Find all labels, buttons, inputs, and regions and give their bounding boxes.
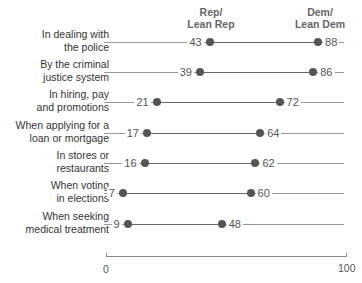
dem-value: 60	[256, 187, 272, 199]
rep-value: 16	[122, 157, 138, 169]
dem-dot	[256, 129, 264, 137]
rep-dot	[206, 38, 214, 46]
category-label: When applying for a loan or mortgage	[0, 119, 109, 145]
x-tick-0	[106, 253, 107, 257]
rep-dot	[143, 129, 151, 137]
rep-value: 7	[107, 187, 117, 199]
legend-dem-line2: Lean Dem	[290, 18, 350, 30]
category-label-line1: In hiring, pay	[0, 88, 109, 101]
category-label-line1: When voting	[0, 179, 109, 192]
legend-dem: Dem/ Lean Dem	[290, 6, 350, 30]
legend-rep: Rep/ Lean Rep	[181, 6, 241, 30]
category-label-line2: in elections	[0, 192, 109, 205]
category-label-line2: medical treatment	[0, 223, 109, 236]
rep-dot	[124, 220, 132, 228]
rep-dot	[196, 68, 204, 76]
dem-value: 72	[285, 96, 301, 108]
category-label-line2: restaurants	[0, 162, 109, 175]
rep-dot	[119, 189, 127, 197]
x-tick-100	[346, 253, 347, 257]
dem-value: 64	[265, 127, 281, 139]
category-label: When voting in elections	[0, 179, 109, 205]
gap-segment	[128, 224, 222, 225]
gap-segment	[200, 72, 313, 73]
rep-dot	[153, 98, 161, 106]
dem-dot	[247, 189, 255, 197]
dem-value: 86	[318, 66, 334, 78]
category-label: In dealing with the police	[0, 28, 109, 54]
gap-segment	[123, 193, 251, 194]
dem-dot	[314, 38, 322, 46]
rep-value: 43	[187, 36, 203, 48]
category-label-line2: justice system	[0, 71, 109, 84]
category-label: When seeking medical treatment	[0, 210, 109, 236]
category-label-line1: When applying for a	[0, 119, 109, 132]
dem-dot	[276, 98, 284, 106]
dem-dot	[251, 159, 259, 167]
rep-value: 17	[125, 127, 141, 139]
rep-value: 39	[178, 66, 194, 78]
category-label-line1: When seeking	[0, 210, 109, 223]
dem-dot	[218, 220, 226, 228]
category-label: By the criminal justice system	[0, 58, 109, 84]
dem-value: 48	[227, 218, 243, 230]
x-tick-label-100: 100	[338, 262, 356, 274]
legend-rep-line2: Lean Rep	[181, 18, 241, 30]
gap-segment	[210, 42, 318, 43]
rep-dot	[141, 159, 149, 167]
x-tick-label-0: 0	[103, 263, 109, 275]
category-label-line1: In dealing with	[0, 28, 109, 41]
dem-value: 62	[260, 157, 276, 169]
category-label-line2: loan or mortgage	[0, 132, 109, 145]
dem-dot	[309, 68, 317, 76]
legend-rep-line1: Rep/	[181, 6, 241, 18]
gap-segment	[147, 133, 260, 134]
category-label: In hiring, pay and promotions	[0, 88, 109, 114]
category-label-line1: In stores or	[0, 149, 109, 162]
category-label-line1: By the criminal	[0, 58, 109, 71]
rep-value: 21	[134, 96, 150, 108]
category-label-line2: and promotions	[0, 101, 109, 114]
legend-dem-line1: Dem/	[290, 6, 350, 18]
gap-segment	[145, 163, 256, 164]
category-label: In stores or restaurants	[0, 149, 109, 175]
category-label-line2: the police	[0, 41, 109, 54]
rep-value: 9	[112, 218, 122, 230]
x-axis	[106, 256, 347, 257]
gap-segment	[157, 102, 280, 103]
dem-value: 88	[323, 36, 339, 48]
